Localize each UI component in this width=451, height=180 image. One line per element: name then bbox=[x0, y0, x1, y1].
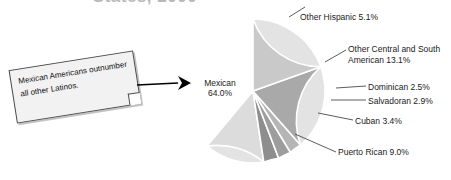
label-salvadoran: Salvadoran 2.9% bbox=[368, 96, 433, 107]
chart-page: States, 2000 Mexican 6 bbox=[0, 0, 451, 180]
label-dominican: Dominican 2.5% bbox=[368, 82, 430, 93]
leader-line-other-central-south-american bbox=[325, 50, 346, 62]
label-puerto-rican: Puerto Rican 9.0% bbox=[338, 147, 409, 158]
callout-arrow-icon bbox=[136, 72, 192, 94]
leader-line-cuban bbox=[318, 113, 353, 120]
leader-line-dominican bbox=[336, 86, 366, 88]
label-cuban: Cuban 3.4% bbox=[355, 116, 402, 127]
label-other-hispanic: Other Hispanic 5.1% bbox=[300, 12, 378, 23]
label-other-central-south-american: Other Central and South American 13.1% bbox=[348, 44, 451, 65]
leader-line-puerto-rican bbox=[295, 134, 336, 152]
note-fold-corner bbox=[128, 92, 142, 106]
